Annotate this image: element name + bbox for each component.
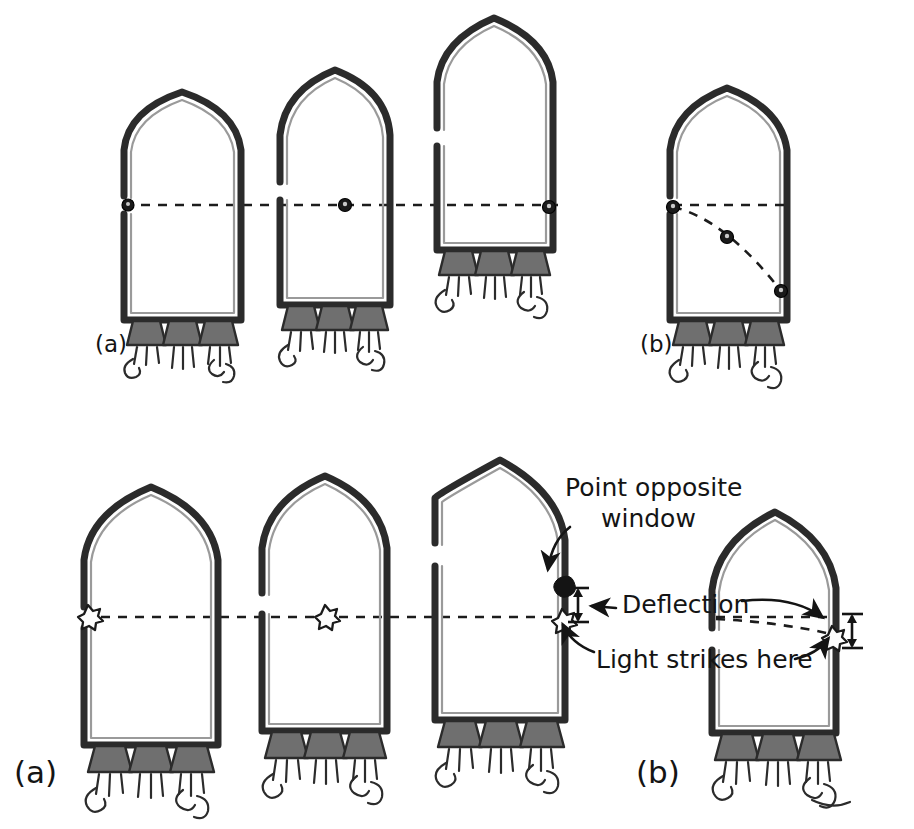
ball-marker xyxy=(775,285,788,298)
engine-nozzle xyxy=(709,321,748,345)
engine-nozzle xyxy=(127,321,166,345)
engine-nozzle xyxy=(343,732,386,758)
engine-nozzle xyxy=(756,734,800,760)
engine-nozzle xyxy=(199,321,238,345)
engine-nozzle xyxy=(304,732,347,758)
ball-marker xyxy=(543,201,556,214)
panel-label-bottom-b: (b) xyxy=(636,754,680,790)
engine-nozzle xyxy=(316,306,354,330)
engine-nozzle xyxy=(797,734,841,760)
figure-root: (a) (b) xyxy=(0,0,914,829)
engine-nozzle xyxy=(511,251,550,275)
panel-label-top-b: (b) xyxy=(640,331,673,357)
engine-nozzle xyxy=(520,721,564,747)
point-opposite-window-label-line1: Point opposite xyxy=(565,473,743,502)
panel-label-top-a: (a) xyxy=(95,331,127,357)
ball-marker xyxy=(667,201,680,214)
engine-nozzle xyxy=(163,321,202,345)
engine-nozzle xyxy=(129,746,173,772)
engine-nozzle xyxy=(88,746,132,772)
engine-nozzle xyxy=(673,321,712,345)
engine-nozzle xyxy=(439,251,478,275)
ball-marker xyxy=(721,231,734,244)
engine-nozzle xyxy=(715,734,759,760)
ball-marker xyxy=(339,199,352,212)
engine-nozzle xyxy=(282,306,320,330)
engine-nozzle xyxy=(170,746,214,772)
engine-nozzle xyxy=(479,721,523,747)
engine-nozzle xyxy=(265,732,308,758)
engine-nozzle xyxy=(745,321,784,345)
engine-nozzle xyxy=(438,721,482,747)
deflection-label: Deflection xyxy=(622,590,749,619)
panel-label-bottom-a: (a) xyxy=(14,754,57,790)
light-strikes-here-label: Light strikes here xyxy=(596,645,813,674)
engine-nozzle xyxy=(350,306,388,330)
rocket-light-deflection-diagram: (a) (b) xyxy=(0,0,914,829)
ball-marker xyxy=(122,199,134,211)
point-opposite-window-label-line2: window xyxy=(601,504,696,533)
engine-nozzle xyxy=(475,251,514,275)
